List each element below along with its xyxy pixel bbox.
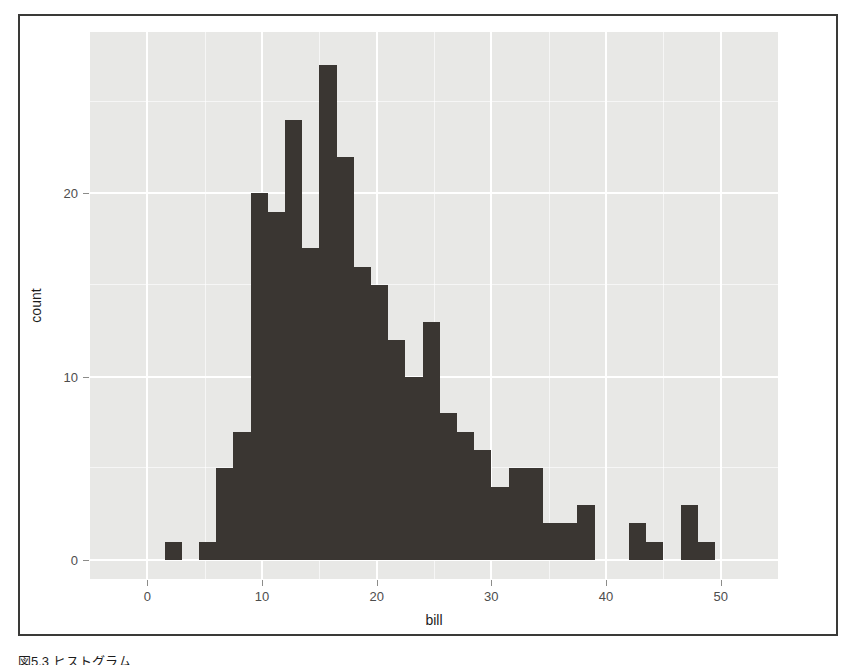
figure-caption: 図5.3 ヒストグラム <box>18 651 131 665</box>
histogram-bar <box>646 542 663 560</box>
x-tick-mark <box>606 580 607 586</box>
histogram-bar <box>388 340 405 560</box>
histogram-bar <box>457 432 474 560</box>
histogram-bar <box>577 505 594 560</box>
histogram-bars <box>90 32 778 579</box>
x-tick-label: 30 <box>484 590 498 603</box>
x-tick-label: 10 <box>255 590 269 603</box>
histogram-bar <box>216 468 233 560</box>
histogram-bar <box>509 468 526 560</box>
histogram-bar <box>440 413 457 560</box>
x-tick-mark <box>491 580 492 586</box>
y-tick-label: 10 <box>50 370 78 383</box>
histogram-bar <box>165 542 182 560</box>
x-axis-title: bill <box>90 612 778 628</box>
histogram-bar <box>268 212 285 560</box>
y-tick-mark <box>83 377 89 378</box>
histogram-bar <box>526 468 543 560</box>
x-tick-mark <box>377 580 378 586</box>
histogram-bar <box>560 523 577 560</box>
histogram-bar <box>543 523 560 560</box>
histogram-bar <box>199 542 216 560</box>
histogram-bar <box>302 248 319 560</box>
x-tick-label: 50 <box>713 590 727 603</box>
y-tick-mark <box>83 560 89 561</box>
y-tick-mark <box>83 193 89 194</box>
x-tick-label: 0 <box>144 590 151 603</box>
histogram-bar <box>474 450 491 560</box>
histogram-bar <box>337 157 354 560</box>
y-axis-title-wrap: count <box>34 32 54 579</box>
histogram-bar <box>319 65 336 560</box>
histogram-bar <box>629 523 646 560</box>
x-tick-label: 40 <box>599 590 613 603</box>
x-tick-mark <box>147 580 148 586</box>
x-tick-label: 20 <box>369 590 383 603</box>
y-tick-label: 0 <box>50 554 78 567</box>
histogram-bar <box>251 193 268 560</box>
x-tick-mark <box>262 580 263 586</box>
plot-area: count 0102030405001020 bill <box>20 16 836 634</box>
histogram-bar <box>681 505 698 560</box>
x-tick-mark <box>721 580 722 586</box>
histogram-bar <box>354 267 371 560</box>
histogram-bar <box>491 487 508 560</box>
histogram-bar <box>285 120 302 560</box>
histogram-bar <box>371 285 388 560</box>
plot-panel <box>90 32 778 579</box>
histogram-bar <box>423 322 440 560</box>
histogram-bar <box>405 377 422 560</box>
histogram-bar <box>698 542 715 560</box>
histogram-bar <box>233 432 250 560</box>
figure-frame: count 0102030405001020 bill <box>18 14 838 636</box>
y-tick-label: 20 <box>50 187 78 200</box>
